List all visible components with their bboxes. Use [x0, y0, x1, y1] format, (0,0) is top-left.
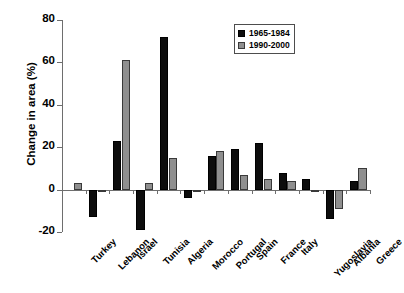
bar-portugal-1990-2000: [216, 151, 224, 189]
y-tick-mark: [57, 105, 62, 106]
bar-france-1965-1984: [255, 143, 263, 190]
bar-israel-1965-1984: [113, 141, 121, 190]
bar-israel-1990-2000: [122, 60, 130, 189]
y-tick-label: 20: [42, 139, 55, 151]
bar-italy-1990-2000: [287, 181, 295, 189]
bar-algeria-1990-2000: [169, 158, 177, 190]
bar-algeria-1965-1984: [160, 37, 168, 190]
bar-tunisia-1990-2000: [145, 183, 153, 189]
x-tick-mark: [299, 190, 300, 194]
x-tick-mark: [370, 190, 371, 194]
y-tick-label: -20: [38, 224, 55, 236]
bar-yugoslavia-1990-2000: [311, 190, 319, 192]
bar-italy-1965-1984: [279, 173, 287, 190]
plot-area: -20020406080: [62, 20, 370, 232]
bar-greece-1990-2000: [358, 168, 366, 189]
bar-portugal-1965-1984: [208, 156, 216, 190]
bar-morocco-1965-1984: [184, 190, 192, 198]
bar-albania-1965-1984: [326, 190, 334, 220]
y-tick-label: 40: [42, 97, 55, 109]
y-tick-label: 80: [42, 12, 55, 24]
legend-item-1990-2000: 1990-2000: [238, 39, 290, 51]
x-tick-mark: [228, 190, 229, 194]
legend-label: 1965-1984: [249, 28, 290, 38]
legend-swatch-icon: [238, 42, 245, 49]
chart-legend: 1965-19841990-2000: [234, 24, 295, 54]
y-tick-mark: [57, 232, 62, 233]
bar-lebanon-1965-1984: [89, 190, 97, 218]
bar-tunisia-1965-1984: [136, 190, 144, 230]
bar-yugoslavia-1965-1984: [302, 179, 310, 190]
y-tick-mark: [57, 20, 62, 21]
x-tick-mark: [275, 190, 276, 194]
x-tick-mark: [109, 190, 110, 194]
legend-swatch-icon: [238, 30, 245, 37]
bar-morocco-1990-2000: [193, 190, 201, 192]
bar-france-1990-2000: [264, 179, 272, 190]
bar-lebanon-1990-2000: [98, 190, 106, 192]
x-tick-mark: [86, 190, 87, 194]
zero-baseline: [62, 190, 370, 191]
bar-spain-1965-1984: [231, 149, 239, 189]
x-tick-mark: [180, 190, 181, 194]
y-tick-label: 60: [42, 54, 55, 66]
y-axis-line: [62, 20, 63, 232]
y-tick-mark: [57, 147, 62, 148]
y-tick-label: 0: [49, 182, 55, 194]
x-tick-mark: [346, 190, 347, 194]
x-tick-mark: [133, 190, 134, 194]
x-tick-mark: [157, 190, 158, 194]
legend-item-1965-1984: 1965-1984: [238, 27, 290, 39]
x-tick-mark: [252, 190, 253, 194]
bar-turkey-1990-2000: [74, 183, 82, 189]
x-tick-mark: [204, 190, 205, 194]
y-tick-mark: [57, 62, 62, 63]
x-label-turkey: Turkey: [89, 236, 118, 265]
bar-greece-1965-1984: [350, 181, 358, 189]
y-tick-mark: [57, 190, 62, 191]
x-tick-mark: [323, 190, 324, 194]
bar-albania-1990-2000: [335, 190, 343, 209]
y-axis-title: Change in area (%): [25, 19, 37, 209]
bar-spain-1990-2000: [240, 175, 248, 190]
legend-label: 1990-2000: [249, 40, 290, 50]
